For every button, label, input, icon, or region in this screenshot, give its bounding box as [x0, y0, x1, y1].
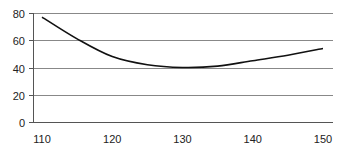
y-tick-label: 20 [13, 90, 25, 102]
y-tick-label: 80 [13, 8, 25, 20]
series-line [42, 17, 323, 67]
x-tick-label: 110 [33, 133, 51, 145]
x-tick-label: 150 [314, 133, 332, 145]
line-chart: 020406080 110120130140150 [0, 0, 343, 152]
x-tick-label: 140 [244, 133, 262, 145]
y-tick-label: 60 [13, 35, 25, 47]
data-series [42, 17, 323, 67]
x-axis: 110120130140150 [33, 133, 332, 145]
x-tick-label: 120 [103, 133, 121, 145]
y-tick-label: 0 [19, 117, 25, 129]
y-tick-label: 40 [13, 63, 25, 75]
x-tick-label: 130 [173, 133, 191, 145]
y-axis: 020406080 [13, 8, 34, 129]
